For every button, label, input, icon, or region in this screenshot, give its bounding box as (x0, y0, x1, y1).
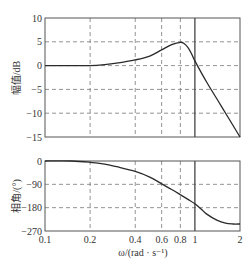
phase-y-tick-label: 0 (37, 156, 42, 167)
magnitude-y-tick-label: 10 (32, 13, 42, 24)
magnitude-y-tick-label: 5 (37, 36, 42, 47)
phase-curve (45, 161, 240, 224)
phase-y-axis-label: 相角/(°) (10, 179, 23, 212)
magnitude-y-tick-label: −10 (26, 108, 42, 119)
phase-x-tick-label: 2 (238, 234, 243, 245)
phase-x-tick-label: 0.6 (155, 234, 168, 245)
phase-y-tick-label: −180 (21, 202, 42, 213)
magnitude-y-tick-label: 0 (37, 60, 42, 71)
phase-plot: 0−90−180−2700.10.20.40.60.812 (21, 156, 242, 246)
phase-axes-frame (45, 161, 240, 231)
magnitude-axes-frame (45, 18, 240, 137)
phase-x-tick-label: 0.1 (39, 234, 52, 245)
bode-plot: 1050−5−10−15 0−90−180−2700.10.20.40.60.8… (0, 0, 251, 269)
phase-x-tick-label: 0.8 (174, 234, 187, 245)
phase-x-tick-label: 1 (192, 234, 197, 245)
phase-x-tick-label: 0.2 (84, 234, 97, 245)
x-axis-label: ω/(rad · s⁻¹) (118, 247, 167, 259)
magnitude-y-tick-label: −15 (26, 132, 42, 143)
phase-y-tick-label: −90 (26, 179, 42, 190)
magnitude-y-axis-label: 幅值/dB (10, 60, 22, 95)
magnitude-plot: 1050−5−10−15 (26, 13, 240, 143)
magnitude-y-tick-label: −5 (31, 84, 42, 95)
phase-x-tick-label: 0.4 (129, 234, 142, 245)
